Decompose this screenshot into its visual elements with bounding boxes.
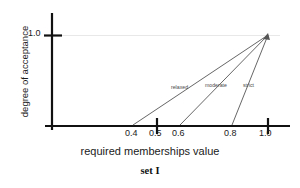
figure-set-i: degree of acceptance 1.0 0.4 0.5 0.6 0.8… [0, 0, 300, 188]
curve-label-moderate: moderate [205, 82, 227, 88]
series-line-strict [232, 35, 268, 125]
curve-label-strict: strict [243, 82, 254, 88]
series-line-relaxed [133, 35, 268, 125]
y-axis-tick-label-1-0: 1.0 [28, 28, 41, 38]
figure-caption: set I [0, 165, 300, 176]
x-axis-tick-label-1-0: 1.0 [259, 128, 272, 138]
series-line-moderate [180, 35, 268, 125]
plot-area [0, 0, 300, 188]
x-axis-tick-label-0-5: 0.5 [149, 128, 162, 138]
x-axis-tick-label-0-4: 0.4 [125, 128, 138, 138]
curve-label-relaxed: relaxed [171, 84, 188, 90]
convergence-arrowhead [263, 33, 270, 40]
x-axis-title: required memberships value [0, 145, 300, 157]
x-axis-tick-label-0-8: 0.8 [224, 128, 237, 138]
x-axis-tick-label-0-6: 0.6 [172, 128, 185, 138]
